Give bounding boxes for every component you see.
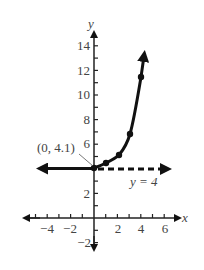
x-tick-4: 4 <box>138 221 145 236</box>
asymptote-label: y = 4 <box>128 174 158 189</box>
y-tick-8: 8 <box>84 112 91 127</box>
exponential-graph: y x 14 12 10 8 6 2 −2 −4 −2 2 4 6 (0, 4.… <box>0 0 204 270</box>
x-axis-label: x <box>181 210 188 225</box>
y-tick-neg2: −2 <box>77 235 91 250</box>
y-tick-14: 14 <box>77 38 91 53</box>
exponential-curve <box>94 56 144 168</box>
curve-points <box>91 74 144 171</box>
y-axis <box>94 34 98 248</box>
x-tick-6: 6 <box>162 221 169 236</box>
x-tick-2: 2 <box>115 221 122 236</box>
asymptote-label-text: y = 4 <box>128 174 158 189</box>
y-tick-10: 10 <box>77 87 90 102</box>
y-tick-6: 6 <box>84 136 91 151</box>
x-axis <box>26 214 178 218</box>
y-axis-label: y <box>86 16 94 31</box>
y-tick-2: 2 <box>84 186 91 201</box>
point-label-leader <box>79 154 93 166</box>
x-tick-neg4: −4 <box>40 221 54 236</box>
point-label: (0, 4.1) <box>37 140 75 155</box>
y-tick-12: 12 <box>77 63 90 78</box>
x-tick-neg2: −2 <box>63 221 77 236</box>
